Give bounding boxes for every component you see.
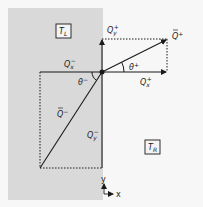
origin-point (100, 70, 105, 75)
qy-plus-label: Qy+ (107, 23, 119, 37)
region-label-TL: TL (56, 24, 71, 38)
region-label-TR: TR (145, 140, 160, 154)
axis-x-label: x (116, 190, 121, 199)
qx-plus-label: Qx+ (140, 75, 152, 88)
theta-plus-label: θ+ (129, 61, 139, 72)
axes-indicator: y x (101, 175, 121, 199)
left-region-TL (8, 8, 103, 200)
axis-y-label: y (101, 175, 106, 184)
flux-vector-diagram: TL TR Q+ Qy+ Qx+ Qx− Qy− Q− θ+ θ− y x (0, 0, 203, 207)
theta-plus-arc (122, 62, 124, 72)
q-plus-label: Q+ (172, 30, 183, 41)
